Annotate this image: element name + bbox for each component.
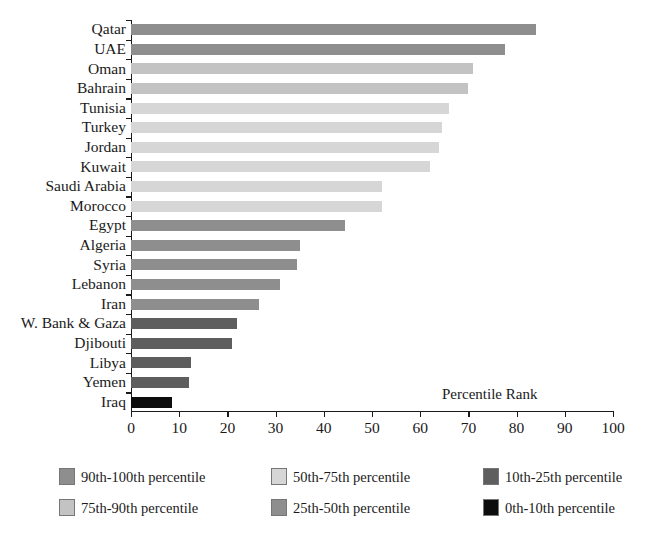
y-axis-label-iraq: Iraq: [101, 394, 126, 410]
bar-row: [131, 157, 430, 177]
bar-row: [131, 216, 345, 236]
bar-row: [131, 236, 300, 256]
bar: [131, 83, 468, 94]
bar-row: [131, 392, 172, 412]
legend-label: 90th-100th percentile: [81, 469, 205, 485]
y-axis-label-iran: Iran: [101, 296, 126, 312]
legend-entry: 0th-10th percentile: [483, 492, 639, 523]
legend-entry: 10th-25th percentile: [483, 461, 639, 492]
bar: [131, 397, 172, 408]
y-axis-label-djibouti: Djibouti: [74, 335, 126, 351]
bar-row: [131, 59, 473, 79]
bar: [131, 122, 442, 133]
legend-entry: 25th-50th percentile: [271, 492, 483, 523]
bar: [131, 338, 232, 349]
legend-entry: 50th-75th percentile: [271, 461, 483, 492]
bar-row: [131, 138, 439, 158]
y-axis-label-turkey: Turkey: [82, 119, 126, 135]
y-axis-tick: [126, 196, 131, 197]
bar-row: [131, 20, 536, 40]
y-axis-label-oman: Oman: [88, 61, 126, 77]
y-axis-tick: [126, 157, 131, 158]
y-axis-label-syria: Syria: [93, 257, 126, 273]
x-axis-tick-label: 90: [557, 419, 573, 437]
y-axis-label-jordan: Jordan: [85, 139, 126, 155]
legend-label: 0th-10th percentile: [505, 500, 615, 516]
legend-swatch: [59, 499, 75, 516]
x-axis-tick-label: 40: [316, 419, 332, 437]
legend-swatch: [483, 499, 499, 516]
y-axis-tick: [126, 314, 131, 315]
bar: [131, 318, 237, 329]
y-axis-tick: [126, 177, 131, 178]
x-axis-tick: [179, 411, 180, 417]
bar-row: [131, 294, 259, 314]
y-axis-tick: [126, 118, 131, 119]
bar-row: [131, 118, 442, 138]
legend-label: 10th-25th percentile: [505, 469, 622, 485]
y-axis-label-saudi-arabia: Saudi Arabia: [46, 178, 127, 194]
x-axis-tick-label: 50: [364, 419, 380, 437]
x-axis-tick-label: 10: [171, 419, 187, 437]
x-axis-tick-label: 60: [412, 419, 428, 437]
x-axis-tick: [613, 411, 614, 417]
legend-swatch: [271, 468, 287, 485]
bar-row: [131, 79, 468, 99]
bar: [131, 161, 430, 172]
y-axis-tick: [126, 79, 131, 80]
legend-entry: 75th-90th percentile: [59, 492, 271, 523]
x-axis-tick: [131, 411, 132, 417]
bar-row: [131, 353, 191, 373]
y-axis-label-lebanon: Lebanon: [72, 276, 126, 292]
x-axis-tick-label: 80: [509, 419, 525, 437]
bar: [131, 103, 449, 114]
y-axis-tick: [126, 138, 131, 139]
x-axis-tick-label: 0: [127, 419, 135, 437]
bar: [131, 377, 189, 388]
y-axis-tick: [126, 98, 131, 99]
legend-label: 75th-90th percentile: [81, 500, 198, 516]
x-axis-tick: [324, 411, 325, 417]
y-axis-tick: [126, 334, 131, 335]
bar: [131, 279, 280, 290]
bar-row: [131, 196, 382, 216]
y-axis-label-qatar: Qatar: [92, 21, 126, 37]
bar: [131, 63, 473, 74]
x-axis-tick-label: 70: [461, 419, 477, 437]
y-axis-tick: [126, 255, 131, 256]
bar-row: [131, 40, 505, 60]
legend-entry: 90th-100th percentile: [59, 461, 271, 492]
x-axis-tick: [227, 411, 228, 417]
y-axis-label-egypt: Egypt: [89, 217, 126, 233]
bar: [131, 299, 259, 310]
y-axis-label-yemen: Yemen: [83, 374, 126, 390]
bar-row: [131, 255, 297, 275]
legend-label: 50th-75th percentile: [293, 469, 410, 485]
bar: [131, 240, 300, 251]
bar: [131, 220, 345, 231]
legend-swatch: [59, 468, 75, 485]
x-axis-tick-label: 100: [601, 419, 624, 437]
bar: [131, 357, 191, 368]
bar: [131, 181, 382, 192]
bar-row: [131, 177, 382, 197]
bar-row: [131, 98, 449, 118]
bar: [131, 44, 505, 55]
y-axis-tick: [126, 353, 131, 354]
bar-row: [131, 334, 232, 354]
y-axis-label-libya: Libya: [90, 355, 126, 371]
y-axis-tick: [126, 236, 131, 237]
percentile-rank-bar-chart: QatarUAEOmanBahrainTunisiaTurkeyJordanKu…: [0, 0, 665, 535]
legend-label: 25th-50th percentile: [293, 500, 410, 516]
x-axis-tick-label: 30: [268, 419, 284, 437]
y-axis-tick: [126, 275, 131, 276]
plot-area: 0102030405060708090100 Percentile Rank: [131, 20, 613, 412]
bar: [131, 259, 297, 270]
x-axis-tick: [276, 411, 277, 417]
y-axis-tick: [126, 392, 131, 393]
y-axis-tick: [126, 294, 131, 295]
legend-swatch: [271, 499, 287, 516]
x-axis-tick: [468, 411, 469, 417]
bar: [131, 201, 382, 212]
y-axis-label-tunisia: Tunisia: [80, 100, 126, 116]
